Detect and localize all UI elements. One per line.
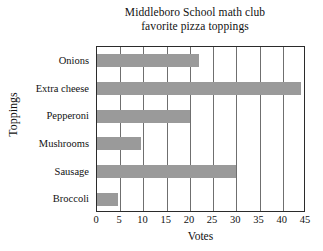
x-axis-tick-labels: 051015202530354045 <box>96 214 305 228</box>
y-axis-tick-label: Extra cheese <box>36 82 89 93</box>
y-axis-tick-label: Broccoli <box>53 193 89 204</box>
y-axis-tick-label: Pepperoni <box>46 110 89 121</box>
bar <box>97 110 190 123</box>
bar-series <box>97 47 304 211</box>
chart-title-line-1: Middleboro School math club <box>70 6 320 20</box>
y-axis-tick-label: Onions <box>59 54 89 65</box>
x-axis-tick-label: 10 <box>137 214 148 226</box>
bar-row <box>97 137 304 150</box>
bar-row <box>97 54 304 67</box>
y-axis-tick-labels: OnionsExtra cheesePepperoniMushroomsSaus… <box>0 46 93 212</box>
bar <box>97 193 118 206</box>
x-axis-tick-label: 40 <box>277 214 288 226</box>
bar-row <box>97 110 304 123</box>
y-axis-tick-label: Sausage <box>55 165 89 176</box>
bar <box>97 165 236 178</box>
x-axis-title: Votes <box>96 230 305 242</box>
bar <box>97 137 141 150</box>
y-axis-tick-label: Mushrooms <box>39 137 89 148</box>
x-axis-tick-label: 5 <box>117 214 122 226</box>
bar <box>97 82 301 95</box>
x-axis-tick-label: 20 <box>184 214 195 226</box>
bar-row <box>97 82 304 95</box>
chart-title-line-2: favorite pizza toppings <box>70 20 320 34</box>
x-axis-tick-label: 45 <box>300 214 311 226</box>
plot-area <box>96 46 305 212</box>
x-axis-tick-label: 0 <box>93 214 98 226</box>
bar <box>97 54 199 67</box>
bar-row <box>97 193 304 206</box>
x-axis-tick-label: 25 <box>207 214 218 226</box>
x-axis-tick-label: 30 <box>230 214 241 226</box>
x-axis-tick-label: 15 <box>160 214 171 226</box>
bar-row <box>97 165 304 178</box>
x-axis-tick-label: 35 <box>253 214 264 226</box>
bar-chart-figure: Middleboro School math club favorite piz… <box>0 0 323 251</box>
chart-title: Middleboro School math club favorite piz… <box>70 6 320 33</box>
